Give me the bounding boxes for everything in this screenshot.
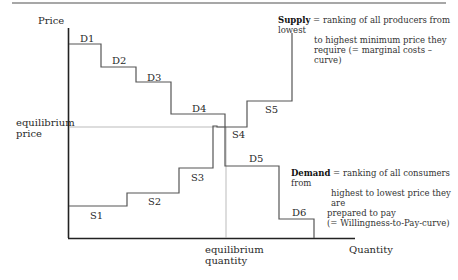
equilibrium-price-label-line2: price	[16, 128, 42, 139]
demand-definition-note: Demand = ranking of all consumers from h…	[291, 168, 458, 228]
demand-note-term: Demand	[291, 168, 330, 178]
supply-note-line2: to highest minimum price they	[278, 35, 458, 45]
demand-curve	[69, 44, 314, 238]
demand-step-label: D2	[112, 55, 126, 66]
supply-step-label: S3	[191, 172, 204, 183]
y-axis-label: Price	[38, 15, 64, 26]
equilibrium-quantity-label-line1: equilibrium	[205, 244, 264, 255]
equilibrium-price-label-line1: equilibrium	[16, 117, 75, 128]
supply-curve	[69, 33, 292, 206]
supply-step-label: S5	[265, 104, 278, 115]
supply-step-label: S1	[90, 210, 103, 221]
supply-note-line3: require (= marginal costs – curve)	[278, 45, 458, 65]
demand-note-line2: highest to lowest price they are	[291, 188, 458, 208]
demand-step-label: D4	[192, 103, 206, 114]
demand-note-line4: (= Willingness-to-Pay-curve)	[291, 218, 458, 228]
supply-step-label: S4	[232, 129, 245, 140]
demand-step-label: D1	[80, 33, 94, 44]
equilibrium-quantity-label-line2: quantity	[205, 255, 247, 266]
x-axis-label: Quantity	[349, 244, 393, 255]
supply-definition-note: Supply = ranking of all producers from l…	[278, 15, 458, 65]
demand-step-label: D3	[147, 72, 161, 83]
demand-note-line3: prepared to pay	[291, 208, 458, 218]
supply-step-label: S2	[148, 196, 161, 207]
supply-note-term: Supply	[278, 15, 310, 25]
demand-step-label: D5	[249, 153, 263, 164]
